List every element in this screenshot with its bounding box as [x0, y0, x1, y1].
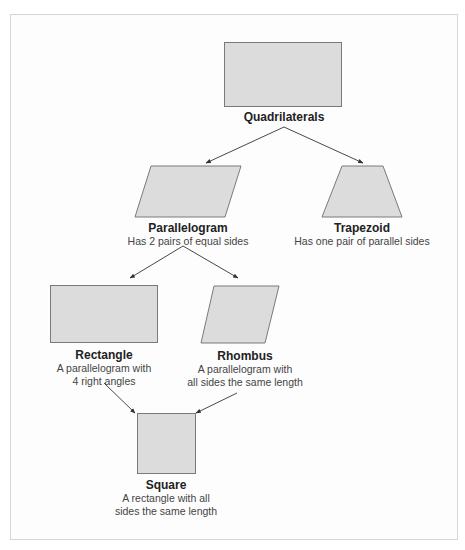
node-description-line: A parallelogram with [170, 363, 320, 376]
diagram-canvas [0, 0, 465, 550]
node-quadrilaterals: Quadrilaterals [204, 110, 364, 124]
arrow-quad-to-trapezoid [284, 127, 363, 163]
node-title: Parallelogram [108, 221, 268, 235]
node-description-line: A parallelogram with [34, 362, 174, 375]
square-shape [138, 414, 196, 474]
node-description-line: 4 right angles [34, 375, 174, 388]
node-description-line: all sides the same length [170, 376, 320, 389]
arrow-quad-to-parallelogram [206, 127, 284, 163]
node-description-line: sides the same length [96, 505, 236, 518]
node-description: Has one pair of parallel sides [287, 235, 437, 248]
arrow-parallelogram-to-rhombus [183, 246, 238, 278]
node-title: Rhombus [170, 349, 320, 363]
node-parallelogram: Parallelogram Has 2 pairs of equal sides [108, 221, 268, 248]
rhombus-shape [201, 286, 279, 343]
node-square: Square A rectangle with all sides the sa… [96, 478, 236, 518]
node-rhombus: Rhombus A parallelogram with all sides t… [170, 349, 320, 389]
node-title: Square [96, 478, 236, 492]
trapezoid-shape [322, 166, 402, 217]
node-title: Trapezoid [287, 221, 437, 235]
rectangle-shape [51, 286, 158, 343]
parallelogram-shape [135, 166, 241, 217]
node-description: Has 2 pairs of equal sides [108, 235, 268, 248]
quadrilateral-shape [225, 43, 342, 107]
arrow-rhombus-to-square [196, 393, 237, 413]
node-title: Quadrilaterals [204, 110, 364, 124]
arrow-parallelogram-to-rectangle [130, 246, 183, 278]
node-title: Rectangle [34, 348, 174, 362]
node-trapezoid: Trapezoid Has one pair of parallel sides [287, 221, 437, 248]
node-description-line: A rectangle with all [96, 492, 236, 505]
node-rectangle: Rectangle A parallelogram with 4 right a… [34, 348, 174, 388]
